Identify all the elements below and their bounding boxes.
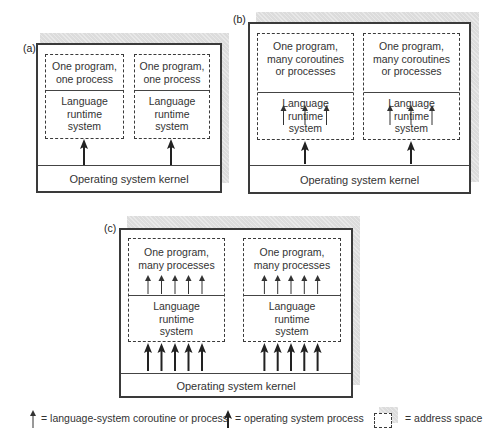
runtime-divider: [364, 92, 459, 93]
legend-address-space-icon: [374, 413, 392, 428]
program-label: One program,many coroutinesor processes: [364, 40, 459, 78]
panel-c-address-space-1: One program,many processes Languagerunti…: [128, 238, 225, 342]
runtime-divider: [46, 90, 123, 91]
panel-c-kernel-divider: [121, 373, 351, 374]
legend-os-process-icon: [222, 409, 236, 429]
legend-coroutine-label: = language-system coroutine or process: [41, 412, 228, 424]
runtime-label: Languageruntimesystem: [129, 300, 224, 338]
runtime-label: Languageruntimesystem: [46, 95, 123, 133]
runtime-divider: [135, 90, 209, 91]
program-label: One program,one process: [46, 60, 123, 85]
legend-address-space-label: = address space: [405, 412, 482, 424]
panel-c-address-space-2: One program,many processes Languagerunti…: [243, 238, 341, 342]
panel-b-address-space-2: One program,many coroutinesor processes …: [363, 33, 460, 140]
runtime-label: Languageruntimesystem: [364, 97, 459, 135]
runtime-label: Languageruntimesystem: [244, 300, 340, 338]
runtime-label: Languageruntimesystem: [135, 95, 209, 133]
panel-b-kernel-divider: [250, 165, 469, 166]
panel-c-kernel-label: Operating system kernel: [121, 380, 351, 392]
panel-c-label: (c): [104, 222, 116, 234]
panel-a-kernel-label: Operating system kernel: [38, 173, 220, 185]
runtime-divider: [129, 295, 224, 296]
program-label: One program,one process: [135, 60, 209, 85]
runtime-label: Languageruntimesystem: [258, 97, 353, 135]
panel-b-kernel-label: Operating system kernel: [250, 174, 469, 186]
panel-b-address-space-1: One program,many coroutinesor processes …: [257, 33, 354, 140]
runtime-divider: [244, 295, 340, 296]
program-label: One program,many processes: [244, 246, 340, 271]
panel-a-address-space-1: One program,one process Languageruntimes…: [45, 54, 124, 139]
program-label: One program,many coroutinesor processes: [258, 40, 353, 78]
runtime-divider: [258, 92, 353, 93]
legend-coroutine-icon: [28, 409, 40, 429]
panel-a-label: (a): [23, 42, 36, 54]
panel-a-kernel-divider: [38, 165, 220, 166]
panel-b-label: (b): [233, 13, 246, 25]
program-label: One program,many processes: [129, 246, 224, 271]
panel-a-address-space-2: One program,one process Languageruntimes…: [134, 54, 210, 139]
legend-os-process-label: = operating system process: [235, 412, 364, 424]
